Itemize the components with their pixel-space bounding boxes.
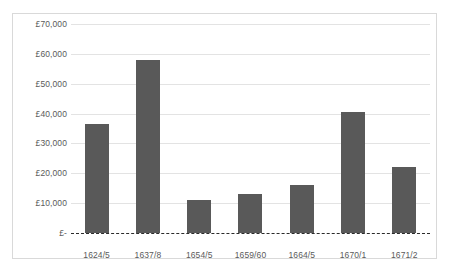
bar-slot <box>71 14 122 258</box>
bar-chart[interactable]: £-£10,000£20,000£30,000£40,000£50,000£60… <box>12 13 437 259</box>
bar-slot <box>327 14 378 258</box>
bar[interactable] <box>290 185 314 233</box>
y-axis-tick-label: £70,000 <box>36 19 67 29</box>
y-axis: £-£10,000£20,000£30,000£40,000£50,000£60… <box>13 14 71 258</box>
y-axis-tick-label: £20,000 <box>36 168 67 178</box>
bar[interactable] <box>392 167 416 233</box>
y-axis-tick-label: £60,000 <box>36 49 67 59</box>
x-axis-tick-label: 1664/5 <box>288 250 315 260</box>
y-axis-tick-label: £- <box>59 228 67 238</box>
x-axis-tick-label: 1654/5 <box>186 250 213 260</box>
y-axis-tick-label: £30,000 <box>36 138 67 148</box>
bar[interactable] <box>136 60 160 233</box>
bar-slot <box>122 14 173 258</box>
plot-area: £-£10,000£20,000£30,000£40,000£50,000£60… <box>13 14 436 258</box>
bar-slot <box>276 14 327 258</box>
bar[interactable] <box>85 124 109 233</box>
bar-slot <box>225 14 276 258</box>
bar-slot <box>174 14 225 258</box>
bar[interactable] <box>341 112 365 233</box>
x-axis-tick-label: 1670/1 <box>340 250 367 260</box>
bar[interactable] <box>238 194 262 233</box>
x-axis-tick-label: 1659/60 <box>235 250 266 260</box>
x-axis-tick-label: 1637/8 <box>135 250 162 260</box>
bars-layer <box>71 14 430 258</box>
bar[interactable] <box>187 200 211 233</box>
x-axis-tick-label: 1624/5 <box>83 250 110 260</box>
y-axis-tick-label: £40,000 <box>36 109 67 119</box>
y-axis-tick-label: £50,000 <box>36 79 67 89</box>
x-axis: 1624/51637/81654/51659/601664/51670/1167… <box>70 250 437 266</box>
y-axis-tick-label: £10,000 <box>36 198 67 208</box>
x-axis-tick-label: 1671/2 <box>391 250 418 260</box>
bar-slot <box>379 14 430 258</box>
